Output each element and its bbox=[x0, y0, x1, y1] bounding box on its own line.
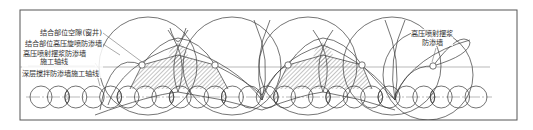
label-joint-rotary-jet-wall: 结合部位高压旋喷防渗墙 bbox=[25, 39, 102, 48]
label-right-wall-line2: 防渗墙 bbox=[422, 38, 443, 47]
label-right-wall-line1: 高压喷射摆浆 bbox=[411, 29, 453, 38]
label-construction-axis: 施工轴线 bbox=[40, 57, 68, 66]
label-joint-gap: 结合部位空隙(窗井) bbox=[40, 28, 102, 37]
anti-seepage-wall-diagram: 结合部位空隙(窗井) 结合部位高压旋喷防渗墙 高压喷射摆浆防渗墙 施工轴线 深层… bbox=[0, 0, 533, 130]
label-deep-mixing-axis: 深层搅拌防渗墙施工轴线 bbox=[22, 69, 99, 78]
diagram-canvas: 结合部位空隙(窗井) 结合部位高压旋喷防渗墙 高压喷射摆浆防渗墙 施工轴线 深层… bbox=[0, 0, 533, 130]
